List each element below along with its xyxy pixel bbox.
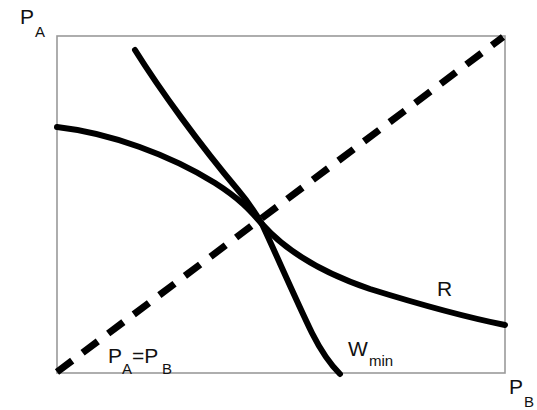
curve-label-wmin-subscript: min <box>369 352 393 369</box>
curve-label-equals-pb: =P <box>132 344 158 367</box>
curve-label-pb-subscript: B <box>162 360 172 377</box>
curve-label-wmin-main: W <box>348 337 368 360</box>
y-axis-label-main: P <box>20 5 34 28</box>
x-axis-label-subscript: B <box>524 393 534 410</box>
canvas-background <box>0 0 537 410</box>
economics-diagram-figure: P A P B R W min P A =P B <box>0 0 537 410</box>
curve-label-r: R <box>437 277 452 300</box>
x-axis-label-main: P <box>509 375 523 398</box>
curve-label-pa-main: P <box>108 344 122 367</box>
plot-canvas: P A P B R W min P A =P B <box>0 0 537 410</box>
curve-label-pa-subscript: A <box>122 360 132 377</box>
y-axis-label-subscript: A <box>35 23 45 40</box>
